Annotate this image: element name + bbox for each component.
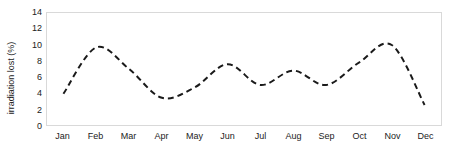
y-axis-tick-label: 10 [22,40,42,49]
y-axis-tick-label: 0 [22,122,42,131]
y-axis-tick-label: 2 [22,105,42,114]
data-series-line [47,13,441,125]
y-axis-tick-label: 4 [22,89,42,98]
y-axis-tick-label: 14 [22,8,42,17]
y-axis-tick-label: 8 [22,56,42,65]
y-axis-tick-labels: 02468101214 [22,10,42,128]
plot-area [46,12,442,126]
series-path-irradiation-lost [63,43,424,105]
line-chart: irradiation lost (%) 02468101214 JanFebM… [0,0,460,156]
x-axis-tick-labels: JanFebMarAprMayJunJulAugSepOctNovDec [46,131,442,147]
y-axis-tick-label: 6 [22,73,42,82]
y-axis-tick-label: 12 [22,24,42,33]
y-axis-title: irradiation lost (%) [0,0,22,156]
x-axis-tick-label: Dec [406,131,446,142]
